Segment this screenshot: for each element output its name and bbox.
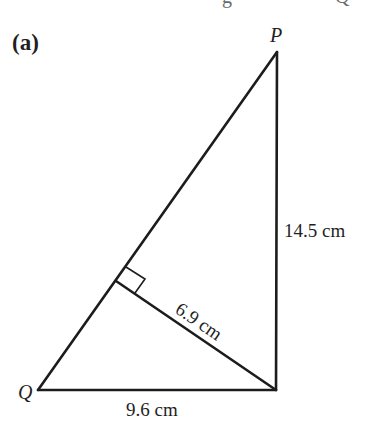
side-pr	[276, 52, 277, 390]
vertex-label-q: Q	[18, 381, 33, 403]
side-pq	[38, 52, 277, 390]
part-label: (a)	[12, 30, 39, 55]
measurement-pr: 14.5 cm	[284, 220, 345, 241]
clipped-header-text: g	[222, 0, 232, 8]
triangle	[38, 52, 277, 390]
vertex-label-p: P	[269, 24, 282, 46]
perpendicular-fr	[116, 281, 276, 390]
measurement-qr: 9.6 cm	[126, 399, 178, 420]
clipped-header-text-2: Q	[335, 0, 350, 7]
triangle-diagram: g Q (a) P Q 14.5 cm 6.9 cm 9.6 cm	[0, 0, 372, 432]
